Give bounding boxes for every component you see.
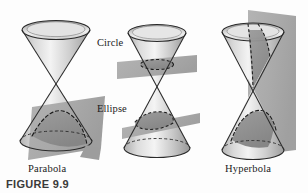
panel-parabola: Parabola xyxy=(20,21,105,175)
panel-circle-ellipse: Circle Ellipse xyxy=(97,25,200,158)
conic-sections-figure: Parabola Circle xyxy=(0,0,308,193)
panel-label-parabola: Parabola xyxy=(28,163,66,174)
hyperbola-lower-cut-region xyxy=(232,111,274,147)
figure-caption: FIGURE 9.9 xyxy=(6,178,69,190)
label-ellipse: Ellipse xyxy=(97,103,127,114)
figure-canvas: Parabola Circle xyxy=(0,0,308,193)
label-circle: Circle xyxy=(97,37,123,48)
parabola-upper-nappe xyxy=(22,21,90,84)
panel-label-hyperbola: Hyperbola xyxy=(225,163,271,174)
panel-hyperbola: Hyperbola xyxy=(222,10,296,174)
